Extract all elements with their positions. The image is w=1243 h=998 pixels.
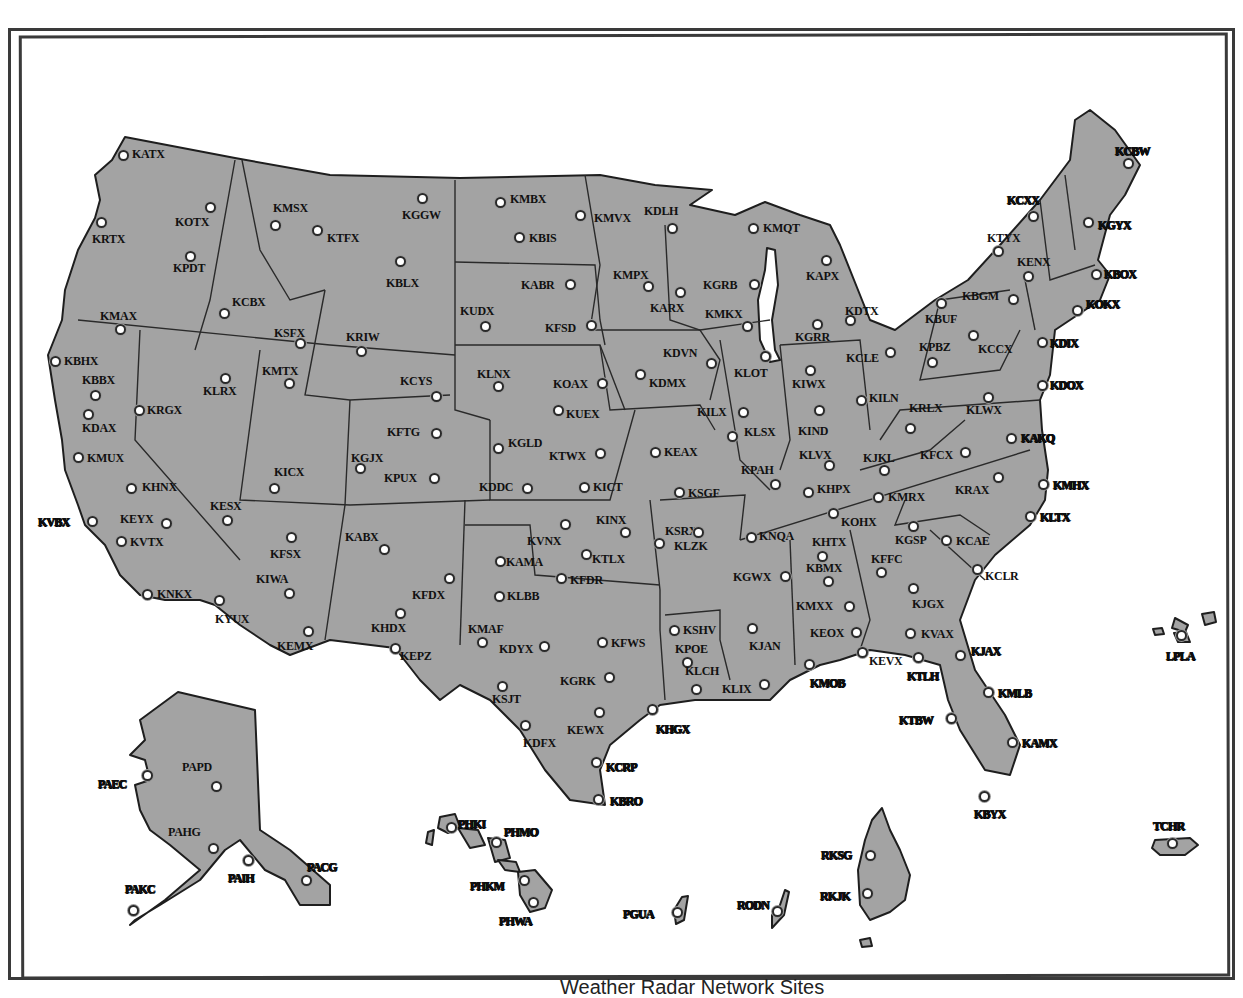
radar-site-marker-icon[interactable] [214, 595, 225, 606]
radar-site-marker-icon[interactable] [286, 532, 297, 543]
radar-site-marker-icon[interactable] [972, 564, 983, 575]
radar-site-marker-icon[interactable] [654, 538, 665, 549]
radar-site-marker-icon[interactable] [650, 447, 661, 458]
radar-site-marker-icon[interactable] [844, 601, 855, 612]
radar-site-marker-icon[interactable] [941, 535, 952, 546]
radar-site-marker-icon[interactable] [927, 357, 938, 368]
radar-site-marker-icon[interactable] [480, 321, 491, 332]
radar-site-marker-icon[interactable] [270, 220, 281, 231]
radar-site-marker-icon[interactable] [161, 518, 172, 529]
radar-site-marker-icon[interactable] [1167, 838, 1178, 849]
radar-site-marker-icon[interactable] [593, 794, 604, 805]
radar-site-marker-icon[interactable] [73, 452, 84, 463]
radar-site-marker-icon[interactable] [1038, 479, 1049, 490]
radar-site-marker-icon[interactable] [604, 672, 615, 683]
radar-site-marker-icon[interactable] [770, 479, 781, 490]
radar-site-marker-icon[interactable] [876, 567, 887, 578]
radar-site-marker-icon[interactable] [142, 770, 153, 781]
radar-site-marker-icon[interactable] [597, 378, 608, 389]
radar-site-marker-icon[interactable] [581, 549, 592, 560]
radar-site-marker-icon[interactable] [205, 202, 216, 213]
radar-site-marker-icon[interactable] [429, 473, 440, 484]
radar-site-marker-icon[interactable] [693, 527, 704, 538]
radar-site-marker-icon[interactable] [395, 256, 406, 267]
radar-site-marker-icon[interactable] [356, 346, 367, 357]
radar-site-marker-icon[interactable] [96, 217, 107, 228]
radar-site-marker-icon[interactable] [493, 443, 504, 454]
radar-site-marker-icon[interactable] [760, 351, 771, 362]
radar-site-marker-icon[interactable] [674, 487, 685, 498]
radar-site-marker-icon[interactable] [243, 855, 254, 866]
radar-site-marker-icon[interactable] [1083, 217, 1094, 228]
radar-site-marker-icon[interactable] [804, 659, 815, 670]
radar-site-marker-icon[interactable] [908, 583, 919, 594]
radar-site-marker-icon[interactable] [565, 279, 576, 290]
radar-site-marker-icon[interactable] [936, 298, 947, 309]
radar-site-marker-icon[interactable] [514, 232, 525, 243]
radar-site-marker-icon[interactable] [211, 781, 222, 792]
radar-site-marker-icon[interactable] [983, 392, 994, 403]
radar-site-marker-icon[interactable] [1008, 294, 1019, 305]
radar-site-marker-icon[interactable] [477, 637, 488, 648]
radar-site-marker-icon[interactable] [851, 627, 862, 638]
radar-site-marker-icon[interactable] [905, 423, 916, 434]
radar-site-marker-icon[interactable] [379, 544, 390, 555]
radar-site-marker-icon[interactable] [446, 822, 457, 833]
radar-site-marker-icon[interactable] [431, 391, 442, 402]
radar-site-marker-icon[interactable] [115, 324, 126, 335]
radar-site-marker-icon[interactable] [1091, 269, 1102, 280]
radar-site-marker-icon[interactable] [821, 255, 832, 266]
radar-site-marker-icon[interactable] [814, 405, 825, 416]
radar-site-marker-icon[interactable] [823, 576, 834, 587]
radar-site-marker-icon[interactable] [691, 684, 702, 695]
radar-site-marker-icon[interactable] [493, 381, 504, 392]
radar-site-marker-icon[interactable] [595, 448, 606, 459]
radar-site-marker-icon[interactable] [643, 281, 654, 292]
radar-site-marker-icon[interactable] [556, 573, 567, 584]
radar-site-marker-icon[interactable] [620, 527, 631, 538]
radar-site-marker-icon[interactable] [706, 358, 717, 369]
radar-site-marker-icon[interactable] [118, 150, 129, 161]
radar-site-marker-icon[interactable] [857, 647, 868, 658]
radar-site-marker-icon[interactable] [128, 905, 139, 916]
radar-site-marker-icon[interactable] [960, 447, 971, 458]
radar-site-marker-icon[interactable] [431, 428, 442, 439]
radar-site-marker-icon[interactable] [222, 515, 233, 526]
radar-site-marker-icon[interactable] [553, 405, 564, 416]
radar-site-marker-icon[interactable] [905, 628, 916, 639]
radar-site-marker-icon[interactable] [803, 487, 814, 498]
radar-site-marker-icon[interactable] [780, 571, 791, 582]
radar-site-marker-icon[interactable] [1007, 737, 1018, 748]
radar-site-marker-icon[interactable] [946, 713, 957, 724]
radar-site-marker-icon[interactable] [993, 246, 1004, 257]
radar-site-marker-icon[interactable] [908, 521, 919, 532]
radar-site-marker-icon[interactable] [1006, 433, 1017, 444]
radar-site-marker-icon[interactable] [879, 465, 890, 476]
radar-site-marker-icon[interactable] [528, 897, 539, 908]
radar-site-marker-icon[interactable] [1025, 511, 1036, 522]
radar-site-marker-icon[interactable] [993, 472, 1004, 483]
radar-site-marker-icon[interactable] [444, 573, 455, 584]
radar-site-marker-icon[interactable] [968, 330, 979, 341]
radar-site-marker-icon[interactable] [126, 483, 137, 494]
radar-site-marker-icon[interactable] [495, 556, 506, 567]
radar-site-marker-icon[interactable] [873, 492, 884, 503]
radar-site-marker-icon[interactable] [284, 378, 295, 389]
radar-site-marker-icon[interactable] [395, 608, 406, 619]
radar-site-marker-icon[interactable] [885, 347, 896, 358]
radar-site-marker-icon[interactable] [955, 650, 966, 661]
radar-site-marker-icon[interactable] [519, 875, 530, 886]
radar-site-marker-icon[interactable] [134, 405, 145, 416]
radar-site-marker-icon[interactable] [597, 637, 608, 648]
radar-site-marker-icon[interactable] [1123, 158, 1134, 169]
radar-site-marker-icon[interactable] [667, 223, 678, 234]
radar-site-marker-icon[interactable] [635, 369, 646, 380]
radar-site-marker-icon[interactable] [727, 431, 738, 442]
radar-site-marker-icon[interactable] [862, 888, 873, 899]
radar-site-marker-icon[interactable] [759, 679, 770, 690]
radar-site-marker-icon[interactable] [591, 757, 602, 768]
radar-site-marker-icon[interactable] [742, 321, 753, 332]
radar-site-marker-icon[interactable] [50, 356, 61, 367]
radar-site-marker-icon[interactable] [301, 875, 312, 886]
radar-site-marker-icon[interactable] [856, 395, 867, 406]
